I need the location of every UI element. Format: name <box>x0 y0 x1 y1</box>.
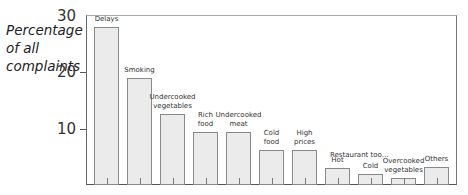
x-tick <box>305 178 306 184</box>
y-tick-label-10: 10 <box>46 120 76 138</box>
x-tick <box>239 178 240 184</box>
y-axis-label-line: of all <box>6 39 83 57</box>
bar-cold <box>358 174 383 185</box>
bar-overcooked-vegetables <box>391 178 416 185</box>
x-tick <box>272 178 273 184</box>
x-tick <box>437 178 438 184</box>
group-annotation: Restaurant too... <box>330 151 388 160</box>
bar-label: Undercookedvegetables <box>143 93 203 111</box>
x-tick <box>173 178 174 184</box>
bar-cold-food <box>259 150 284 185</box>
bar-others <box>424 167 449 185</box>
bar-label: Undercookedmeat <box>209 111 269 129</box>
x-tick <box>140 178 141 184</box>
bar-delays <box>94 27 119 185</box>
bar-rich-food <box>193 132 218 185</box>
x-tick <box>107 178 108 184</box>
bar-label: Smoking <box>110 66 170 75</box>
x-tick <box>404 178 405 184</box>
y-tick-label-30: 30 <box>46 7 76 25</box>
bar-label: Others <box>407 155 467 164</box>
x-tick <box>371 178 372 184</box>
bar-label: Delays <box>77 15 137 24</box>
bar-label: Highprices <box>275 129 335 147</box>
y-tick-label-20: 20 <box>46 63 76 81</box>
x-tick <box>206 178 207 184</box>
x-tick <box>338 178 339 184</box>
